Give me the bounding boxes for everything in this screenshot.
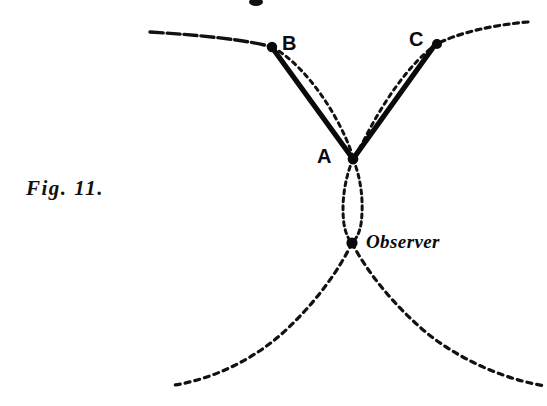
diagram-svg	[0, 0, 547, 406]
curve-upper-left-outer	[150, 32, 272, 47]
line-C-to-A	[353, 42, 437, 159]
point-marker-a	[348, 154, 359, 165]
curve-lower-right	[352, 243, 546, 386]
point-marker-b	[267, 42, 277, 52]
point-label-c: C	[409, 29, 423, 49]
curve-waist-right	[352, 159, 362, 243]
point-marker-c	[432, 39, 442, 49]
curve-upper-right-outer	[437, 22, 528, 44]
curve-lower-left	[175, 243, 352, 385]
point-marker-observer	[346, 237, 357, 248]
line-B-to-A	[271, 46, 353, 159]
point-label-observer: Observer	[366, 232, 440, 251]
point-label-b: B	[282, 33, 296, 53]
clipped-ink-fragment	[249, 0, 263, 6]
figure-canvas: Fig. 11. B C A Observer	[0, 0, 547, 406]
point-label-a: A	[317, 146, 331, 166]
curve-waist-left	[343, 159, 353, 243]
figure-caption: Fig. 11.	[26, 176, 104, 201]
